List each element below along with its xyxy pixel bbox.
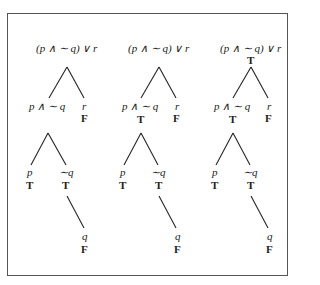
leaf-q-formula: q bbox=[82, 231, 88, 242]
left-node-formula: p ∧ ∼ q bbox=[214, 101, 250, 112]
right-node-value: F bbox=[265, 113, 272, 124]
left-node-value: T bbox=[137, 114, 144, 125]
root-formula: (p ∧ ∼ q) ∨ r bbox=[128, 43, 189, 54]
leaf-p-formula: p bbox=[27, 167, 33, 178]
leaf-not-q-formula: ∼q bbox=[243, 167, 258, 178]
root-value: T bbox=[247, 55, 254, 66]
left-node-formula: p ∧ ∼ q bbox=[122, 101, 158, 112]
leaf-p-value: T bbox=[119, 180, 126, 191]
right-node-formula: r bbox=[267, 101, 271, 112]
leaf-p-value: T bbox=[26, 180, 33, 191]
leaf-q-formula: q bbox=[175, 231, 181, 242]
left-node-value: T bbox=[229, 114, 236, 125]
leaf-p-value: T bbox=[211, 180, 218, 191]
leaf-not-q-formula: ∼q bbox=[151, 167, 166, 178]
leaf-q-value: F bbox=[266, 244, 273, 255]
left-node-formula: p ∧ ∼ q bbox=[29, 101, 65, 112]
right-node-value: F bbox=[81, 113, 88, 124]
root-formula: (p ∧ ∼ q) ∨ r bbox=[36, 43, 97, 54]
right-node-value: F bbox=[173, 113, 180, 124]
leaf-p-formula: p bbox=[120, 167, 126, 178]
leaf-p-formula: p bbox=[212, 167, 218, 178]
right-node-formula: r bbox=[175, 101, 179, 112]
leaf-not-q-value: T bbox=[62, 180, 69, 191]
right-node-formula: r bbox=[82, 101, 86, 112]
leaf-q-formula: q bbox=[267, 231, 273, 242]
leaf-not-q-value: T bbox=[155, 180, 162, 191]
leaf-q-value: F bbox=[81, 244, 88, 255]
leaf-q-value: F bbox=[174, 244, 181, 255]
leaf-not-q-value: T bbox=[247, 180, 254, 191]
root-formula: (p ∧ ∼ q) ∨ r bbox=[220, 43, 281, 54]
leaf-not-q-formula: ∼q bbox=[59, 167, 74, 178]
